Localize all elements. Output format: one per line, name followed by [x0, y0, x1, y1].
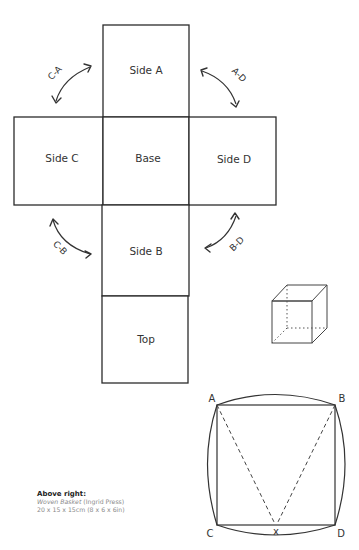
fold-arrow-c-a: C-A — [46, 63, 91, 103]
c-a-label: C-A — [46, 63, 65, 82]
caption-artist: (Ingrid Press) — [81, 498, 124, 505]
point-x-label: x — [273, 526, 279, 537]
curved-outline — [208, 395, 346, 536]
side-a-label: Side A — [129, 64, 163, 76]
point-d-label: D — [337, 528, 345, 539]
caption: Above right: Woven Basket (Ingrid Press)… — [37, 490, 125, 514]
arrowhead-icon — [205, 244, 211, 252]
square-abcd — [217, 405, 335, 525]
a-d-label: A-D — [230, 66, 249, 85]
b-d-label: B-D — [228, 235, 247, 254]
side-c-label: Side C — [45, 152, 78, 164]
fold-arrow-b-d: B-D — [205, 213, 246, 253]
side-b-label: Side B — [129, 245, 162, 257]
basket-construction-diagram: A B C D x — [207, 393, 346, 539]
arrowhead-icon — [85, 251, 91, 258]
caption-work: Woven Basket (Ingrid Press) — [37, 498, 125, 506]
caption-work-title: Woven Basket — [37, 498, 81, 505]
fold-arrow-c-b: C-B — [50, 219, 91, 258]
point-a-label: A — [209, 393, 216, 404]
point-b-label: B — [339, 393, 346, 404]
point-c-label: C — [207, 528, 214, 539]
top-label: Top — [136, 333, 155, 345]
side-d-label: Side D — [217, 153, 251, 165]
caption-title: Above right: — [37, 490, 125, 498]
cube-wireframe-icon — [272, 285, 327, 343]
fold-arrow-a-d: A-D — [201, 66, 248, 107]
diagram-canvas: Side A Side C Base Side D Side B Top C-A… — [0, 0, 359, 550]
base-label: Base — [135, 152, 161, 164]
caption-dimensions: 20 x 15 x 15cm (8 x 6 x 6in) — [37, 506, 125, 514]
